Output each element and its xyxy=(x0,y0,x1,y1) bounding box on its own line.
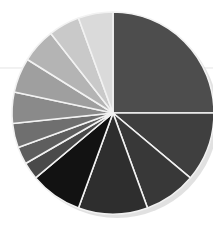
pie-chart-figure xyxy=(0,0,213,226)
pie-slice xyxy=(113,12,213,113)
pie-chart-canvas xyxy=(0,0,213,226)
pie-slices-group xyxy=(12,12,213,214)
